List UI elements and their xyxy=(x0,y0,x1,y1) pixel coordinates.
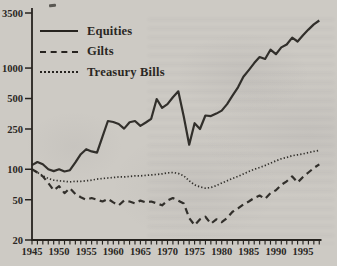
y-tick-label-50: 50 xyxy=(13,195,24,206)
x-tick-label-1975: 1975 xyxy=(184,246,205,257)
x-tick-label-1995: 1995 xyxy=(293,246,314,257)
y-tick-label-3500: 3500 xyxy=(2,8,23,19)
y-tick-label-1000: 1000 xyxy=(2,63,23,74)
legend-item-treasury-bills: Treasury Bills xyxy=(40,62,165,83)
legend-label-equities: Equities xyxy=(87,24,132,39)
x-tick-label-1980: 1980 xyxy=(211,246,232,257)
dashed-line-sample-icon xyxy=(40,51,78,53)
x-tick-label-1960: 1960 xyxy=(103,246,124,257)
legend-item-gilts: Gilts xyxy=(40,42,165,63)
x-tick-label-1970: 1970 xyxy=(157,246,178,257)
x-tick-label-1990: 1990 xyxy=(265,246,286,257)
y-tick-label-100: 100 xyxy=(7,164,23,175)
legend-label-treasury-bills: Treasury Bills xyxy=(87,65,165,80)
y-tick-label-250: 250 xyxy=(7,124,23,135)
solid-line-sample-icon xyxy=(40,30,78,32)
x-tick-label-1985: 1985 xyxy=(238,246,259,257)
scanned-figure-page: 2050100250500100035001945195019551960196… xyxy=(0,0,337,266)
legend-item-equities: Equities xyxy=(40,21,165,42)
dotted-line-sample-icon xyxy=(40,71,78,73)
x-tick-label-1945: 1945 xyxy=(22,246,43,257)
x-tick-label-1965: 1965 xyxy=(130,246,151,257)
y-tick-label-500: 500 xyxy=(7,93,23,104)
legend-label-gilts: Gilts xyxy=(87,44,114,59)
x-tick-label-1950: 1950 xyxy=(49,246,70,257)
y-tick-label-20: 20 xyxy=(13,235,24,246)
series-treasury-bills xyxy=(32,150,319,188)
x-tick-label-1955: 1955 xyxy=(76,246,97,257)
chart-legend: Equities Gilts Treasury Bills xyxy=(40,21,165,83)
